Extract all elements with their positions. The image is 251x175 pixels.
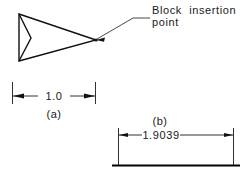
dimension-b-arrowhead-left-icon	[119, 133, 128, 137]
dimension-a-value: 1.0	[45, 90, 62, 102]
dimension-b-arrowhead-right-icon	[224, 133, 233, 137]
leader-label-line-1: Block insertion	[152, 4, 236, 16]
dimension-a-arrowhead-right-icon	[84, 94, 95, 99]
dimension-b-group: 1.9039	[119, 128, 234, 166]
leader-line	[97, 18, 150, 39]
leader-line-group	[96, 18, 150, 42]
dimension-b-value: 1.9039	[142, 129, 179, 141]
leader-label-line-2: point	[152, 16, 179, 28]
cad-drawing-canvas: Block insertion point 1.0 (a) (b)	[0, 0, 251, 175]
dimension-a-group: 1.0	[13, 82, 96, 104]
leader-arrowhead-icon	[96, 38, 105, 42]
figure-b-caption: (b)	[152, 115, 167, 127]
arrow-block-shape	[19, 14, 96, 61]
figure-a-caption: (a)	[46, 108, 61, 120]
dimension-a-arrowhead-left-icon	[13, 94, 24, 99]
arrow-block-tail-notch	[19, 14, 31, 61]
